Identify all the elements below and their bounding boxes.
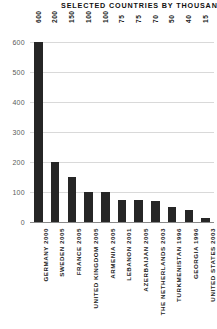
bar-value-label: 100 (86, 10, 93, 23)
bar-value-label: 75 (136, 15, 143, 23)
bar[interactable] (34, 42, 43, 222)
gridline (30, 132, 214, 133)
x-axis-category-label: TURKMENISTAN 1996 (176, 228, 182, 302)
gridline (30, 222, 214, 223)
bar[interactable] (134, 200, 143, 223)
bar-chart: SELECTED COUNTRIES BY THOUSANDS 01002003… (0, 0, 217, 329)
bar[interactable] (51, 162, 60, 222)
x-axis-category-label: GERMANY 2000 (43, 228, 49, 282)
bar-value-label: 70 (153, 15, 160, 23)
bar[interactable] (68, 177, 77, 222)
gridline (30, 72, 214, 73)
x-axis-category-label: UNITED KINGDOM 2005 (93, 228, 99, 309)
bar[interactable] (185, 210, 194, 222)
gridline (30, 42, 214, 43)
y-axis-tick-label: 500 (0, 69, 25, 76)
bar-value-label: 15 (203, 15, 210, 23)
y-axis-tick-label: 400 (0, 99, 25, 106)
bar[interactable] (118, 200, 127, 223)
x-axis-category-label: LEBANON 2001 (126, 228, 132, 281)
bar-value-label: 600 (36, 10, 43, 23)
bar-value-label: 150 (69, 10, 76, 23)
bar-value-label: 200 (52, 10, 59, 23)
bar[interactable] (84, 192, 93, 222)
x-axis-category-label: GEORGIA 1996 (193, 228, 199, 279)
gridline (30, 102, 214, 103)
y-axis-tick-label: 600 (0, 39, 25, 46)
bar[interactable] (168, 207, 177, 222)
plot-area (30, 42, 214, 222)
y-axis-tick-label: 0 (0, 219, 25, 226)
chart-title: SELECTED COUNTRIES BY THOUSANDS (61, 1, 213, 10)
x-axis-category-label: UNITED STATES 2003 (210, 228, 216, 302)
y-axis-tick-label: 200 (0, 159, 25, 166)
x-axis-category-label: AZERBAIJAN 2005 (143, 228, 149, 292)
bar-value-label: 75 (119, 15, 126, 23)
bar-value-label: 100 (103, 10, 110, 23)
y-axis-tick-label: 100 (0, 189, 25, 196)
x-axis-category-label: SWEDEN 2005 (59, 228, 65, 277)
bar[interactable] (101, 192, 110, 222)
bar[interactable] (151, 201, 160, 222)
x-axis-category-label: FRANCE 2005 (76, 228, 82, 275)
bar-value-label: 50 (169, 15, 176, 23)
bar[interactable] (201, 218, 210, 223)
x-axis-category-label: THE NETHERLANDS 2003 (160, 228, 166, 315)
y-axis-tick-label: 300 (0, 129, 25, 136)
bar-value-label: 40 (186, 15, 193, 23)
x-axis-category-label: ARMENIA 2005 (110, 228, 116, 279)
